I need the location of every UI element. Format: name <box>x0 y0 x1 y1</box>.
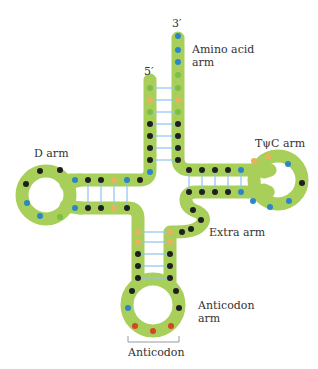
tpsic-arm-label: TψC arm <box>255 138 305 150</box>
three-prime-label: 3′ <box>172 18 182 30</box>
d-arm-label: D arm <box>34 148 69 160</box>
anticodon-label: Anticodon <box>128 347 185 359</box>
anticodon-left-strand <box>80 208 138 282</box>
anticodon-arm-label-line2: arm <box>198 313 220 325</box>
trna-diagram: 3′ 5′ Amino acid arm D arm TψC arm Extra… <box>0 0 318 369</box>
anticodon-arm-label: Anticodon <box>198 300 255 312</box>
five-prime-label: 5′ <box>144 66 154 78</box>
amino-acid-arm-label: Amino acid <box>192 44 254 56</box>
d-loop <box>22 171 70 219</box>
trna-structure-svg <box>0 0 318 369</box>
acceptor-5prime-strand <box>70 80 150 180</box>
amino-acid-arm-label-line2: arm <box>192 57 214 69</box>
extra-arm-label: Extra arm <box>209 227 265 239</box>
